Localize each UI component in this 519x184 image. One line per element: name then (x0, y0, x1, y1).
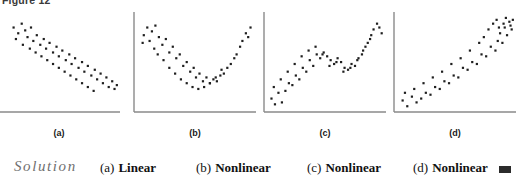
answer-tag: (b) (196, 160, 211, 175)
answer-text: Linear (118, 160, 156, 175)
answer-text: Nonlinear (432, 160, 488, 175)
figure-caption: Figure 12 (2, 0, 50, 6)
solution-label: Solution (14, 158, 77, 175)
scatter-panel-strip: (a)(b)(c)(d) (0, 10, 519, 148)
panel-label-b: (b) (130, 128, 260, 138)
answer-tag: (d) (413, 160, 428, 175)
panel-label-c: (c) (260, 128, 390, 138)
solution-answer-d: (d)Nonlinear (413, 160, 488, 176)
scatter-panel-a: (a) (0, 10, 124, 148)
scatter-plot-a (0, 10, 124, 126)
data-points-c (270, 23, 382, 106)
panel-label-d: (d) (390, 128, 519, 138)
scatter-panel-b: (b) (130, 10, 260, 148)
solution-answer-b: (b)Nonlinear (196, 160, 271, 176)
answer-tag: (a) (100, 160, 114, 175)
answer-text: Nonlinear (215, 160, 271, 175)
solution-answer-c: (c)Nonlinear (307, 160, 381, 176)
scatter-plot-b (130, 10, 260, 126)
scatter-panel-c: (c) (260, 10, 390, 148)
scatter-panel-d: (d) (390, 10, 519, 148)
data-points-b (142, 25, 252, 91)
data-points-a (13, 23, 118, 92)
solution-answer-a: (a)Linear (100, 160, 156, 176)
data-points-d (402, 17, 514, 108)
panel-label-a: (a) (0, 128, 124, 138)
answer-text: Nonlinear (325, 160, 381, 175)
solution-row: Solution (a)Linear(b)Nonlinear(c)Nonline… (0, 158, 519, 184)
scatter-plot-d (390, 10, 519, 126)
end-of-solution-marker (499, 166, 511, 173)
scatter-plot-c (260, 10, 390, 126)
answer-tag: (c) (307, 160, 321, 175)
